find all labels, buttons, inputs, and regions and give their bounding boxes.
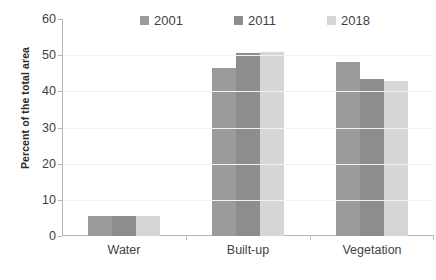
gridline xyxy=(63,164,434,165)
gridline xyxy=(63,91,434,92)
y-axis-tick-labels: 0102030405060 xyxy=(30,12,56,242)
y-tick-mark xyxy=(58,236,62,237)
y-tick-mark xyxy=(58,91,62,92)
bar-water-2018 xyxy=(136,216,160,236)
y-tick-label: 10 xyxy=(42,194,56,207)
bar-water-2001 xyxy=(88,216,112,236)
x-axis-category-labels: WaterBuilt-upVegetation xyxy=(62,244,434,264)
y-tick-mark xyxy=(58,200,62,201)
gridline xyxy=(63,200,434,201)
bar-built-up-2011 xyxy=(236,53,260,236)
x-separator-tick xyxy=(433,236,434,240)
bar-vegetation-2018 xyxy=(384,81,408,236)
plot-area xyxy=(62,19,434,236)
x-separator-tick xyxy=(310,236,311,240)
x-label-built-up: Built-up xyxy=(227,244,269,257)
gridline xyxy=(63,128,434,129)
bar-vegetation-2001 xyxy=(336,62,360,236)
y-tick-label: 60 xyxy=(42,13,56,26)
y-tick-label: 40 xyxy=(42,85,56,98)
x-label-water: Water xyxy=(108,244,141,257)
y-tick-label: 50 xyxy=(42,49,56,62)
bar-built-up-2001 xyxy=(212,68,236,236)
bar-vegetation-2011 xyxy=(360,79,384,236)
y-tick-label: 0 xyxy=(49,230,56,243)
bar-water-2011 xyxy=(112,216,136,236)
gridline xyxy=(63,55,434,56)
y-tick-mark xyxy=(58,128,62,129)
y-tick-label: 20 xyxy=(42,157,56,170)
y-tick-label: 30 xyxy=(42,121,56,134)
y-tick-mark xyxy=(58,19,62,20)
y-tick-mark xyxy=(58,55,62,56)
x-separator-tick xyxy=(186,236,187,240)
bar-chart: 2001 2011 2018 Percent of the total area… xyxy=(0,0,436,280)
bar-built-up-2018 xyxy=(260,52,284,236)
x-label-vegetation: Vegetation xyxy=(342,244,401,257)
y-tick-mark xyxy=(58,164,62,165)
